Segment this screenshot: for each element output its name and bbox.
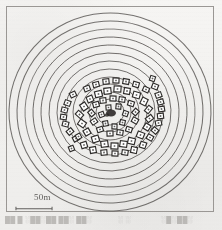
scale-bar-label: 50m — [34, 192, 51, 202]
structure-outline — [98, 111, 104, 117]
structure-outline — [124, 88, 131, 95]
structure-outline — [155, 120, 162, 126]
structure-center-mark — [124, 152, 126, 154]
structure-outline — [100, 98, 106, 104]
structure-outline — [130, 146, 137, 153]
structure-outline — [132, 91, 140, 99]
structure-outline — [122, 110, 128, 116]
structure-center-mark — [102, 100, 104, 102]
structure-outline — [144, 105, 152, 114]
structure-outline — [107, 131, 113, 136]
structure-outline — [120, 120, 126, 126]
structure-center-mark — [125, 81, 127, 83]
caption-fragment-middle: ░ ░ — [118, 216, 131, 224]
scale-bar-rule — [15, 206, 53, 211]
structure-outline — [66, 128, 74, 136]
structure-outline — [127, 100, 134, 107]
structure-center-mark — [126, 90, 128, 92]
structure-outline — [120, 141, 128, 148]
structure-outline — [122, 150, 129, 156]
structure-outline — [91, 135, 100, 143]
structure-center-mark — [105, 81, 107, 83]
structure-outline — [117, 130, 124, 136]
structure-center-mark — [118, 106, 120, 108]
structure-outline — [149, 75, 155, 81]
structure-outline — [61, 107, 68, 113]
structure-center-mark — [105, 123, 107, 125]
structure-outline — [101, 141, 109, 148]
structure-outline — [60, 114, 67, 120]
structure-center-mark — [114, 145, 116, 147]
structure-outline — [92, 81, 99, 87]
structure-center-mark — [119, 132, 121, 134]
structure-outline — [123, 79, 130, 85]
structure-center-mark — [103, 152, 105, 154]
structure-outline — [62, 121, 69, 127]
structure-outline — [110, 96, 116, 101]
structure-outline — [142, 86, 150, 93]
structure-outline — [106, 105, 111, 110]
structure-center-mark — [160, 115, 162, 117]
structure-outline — [132, 108, 140, 116]
structure-outline — [136, 131, 145, 139]
structure-outline — [68, 145, 75, 152]
structure-outline — [151, 83, 158, 90]
structure-outline — [116, 104, 121, 109]
structure-outline — [112, 124, 117, 129]
structure-outline — [119, 97, 126, 103]
central-plaza-blob-secondary — [105, 113, 110, 117]
structure-outline — [103, 121, 109, 127]
structure-outline — [139, 141, 147, 149]
scale-bar: 50m — [14, 192, 70, 214]
structure-outline — [80, 141, 88, 149]
structure-center-mark — [109, 133, 111, 135]
structure-outline — [90, 118, 98, 126]
structure-outline — [103, 79, 109, 85]
caption-fragment-right: ░█░██░ — [161, 216, 193, 224]
structure-outline — [113, 78, 119, 83]
structure-center-mark — [121, 99, 123, 101]
structure-outline — [92, 101, 99, 107]
structure-outline — [143, 123, 151, 131]
structure-center-mark — [117, 88, 119, 90]
structure-outline — [94, 90, 102, 98]
figure-root: 50m ██ █ ░██░██ ██░ ██░ ░ ░ ░█░██░ — [0, 0, 222, 230]
caption-fragment-left: ██ █ ░██░██ ██░ ██░ — [5, 216, 92, 224]
structure-center-mark — [158, 122, 160, 124]
structure-outline — [127, 137, 135, 145]
structure-outline — [83, 128, 91, 136]
structure-center-mark — [112, 98, 114, 100]
structure-outline — [131, 117, 139, 124]
structure-center-mark — [133, 149, 135, 151]
structure-center-mark — [92, 149, 94, 151]
structure-center-mark — [115, 80, 117, 82]
structure-center-mark — [104, 143, 106, 145]
structure-outline — [140, 97, 148, 106]
structure-outline — [101, 150, 107, 156]
structure-center-mark — [108, 107, 110, 109]
structure-outline — [86, 95, 94, 103]
structure-outline — [112, 151, 118, 156]
structure-outline — [104, 88, 112, 95]
structure-outline — [157, 99, 164, 105]
structure-outline — [158, 106, 165, 112]
structure-center-mark — [107, 90, 109, 92]
structure-outline — [90, 147, 97, 154]
figure-caption: ██ █ ░██░██ ██░ ██░ ░ ░ ░█░██░ — [0, 216, 222, 230]
structure-outline — [64, 100, 71, 107]
structure-center-mark — [122, 122, 124, 124]
structure-outline — [75, 110, 84, 118]
structure-center-mark — [63, 116, 65, 118]
structure-center-mark — [114, 153, 116, 155]
structure-center-mark — [114, 126, 116, 128]
structure-outline — [96, 126, 103, 133]
structure-outline — [125, 126, 132, 133]
structure-outline — [83, 85, 90, 92]
structure-outline — [111, 143, 118, 149]
structure-outline — [146, 134, 154, 141]
structure-center-mark — [123, 143, 125, 145]
structure-outline — [132, 81, 139, 87]
structure-outline — [114, 86, 121, 92]
structure-center-mark — [161, 108, 163, 110]
structure-outline — [157, 113, 163, 119]
